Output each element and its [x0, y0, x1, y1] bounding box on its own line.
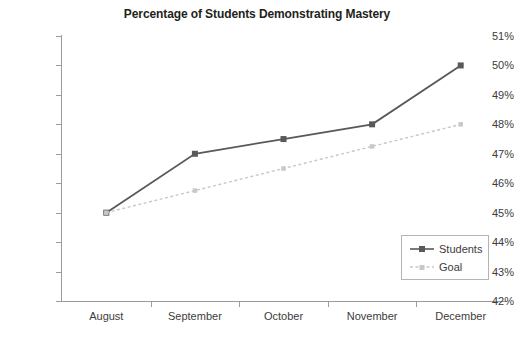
chart-legend: Students Goal: [401, 235, 489, 280]
legend-swatch-goal: [410, 262, 434, 272]
legend-item-students[interactable]: Students: [410, 240, 488, 258]
legend-swatch-students: [410, 244, 434, 254]
legend-label-students: Students: [439, 244, 482, 255]
data-point-marker: [370, 144, 375, 149]
data-point-marker: [104, 210, 109, 215]
chart-plot-lines: [0, 0, 514, 341]
data-point-marker: [281, 136, 287, 142]
data-point-marker: [458, 62, 464, 68]
legend-label-goal: Goal: [439, 262, 462, 273]
data-point-marker: [458, 122, 463, 127]
legend-item-goal[interactable]: Goal: [410, 258, 488, 276]
data-point-marker: [281, 166, 286, 171]
data-point-marker: [369, 121, 375, 127]
data-point-marker: [192, 151, 198, 157]
chart-container: Percentage of Students Demonstrating Mas…: [0, 0, 514, 341]
data-point-marker: [193, 188, 198, 193]
